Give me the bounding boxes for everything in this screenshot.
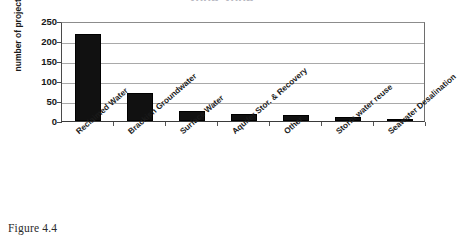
y-tick-label: 250 [17, 17, 57, 27]
y-tick-label: 150 [17, 57, 57, 67]
x-tick-mark [165, 122, 166, 126]
y-tick-mark [57, 122, 62, 123]
y-tick-label: 100 [17, 77, 57, 87]
y-tick-label: 200 [17, 37, 57, 47]
gridline [62, 83, 424, 84]
y-tick-label: 50 [17, 97, 57, 107]
x-tick-mark [113, 122, 114, 126]
gridline [62, 63, 424, 64]
x-tick-mark [425, 122, 426, 126]
chart-title-cutoff: 2005 2006 [0, 0, 442, 1]
x-tick-mark [321, 122, 322, 126]
x-tick-mark [373, 122, 374, 126]
gridline [62, 43, 424, 44]
x-tick-mark [269, 122, 270, 126]
x-tick-mark [217, 122, 218, 126]
figure-caption: Figure 4.4 [8, 222, 57, 234]
y-tick-label: 0 [17, 117, 57, 127]
